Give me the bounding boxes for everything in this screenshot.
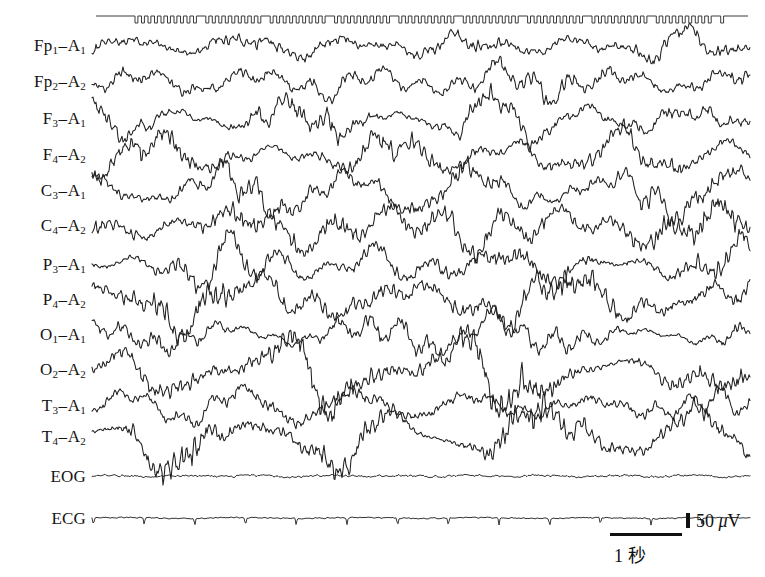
- amplitude-calibration-label: 50 μV: [696, 511, 741, 532]
- eeg-trace-area: [0, 0, 765, 577]
- trace-f4-a2: [92, 119, 750, 186]
- amplitude-calibration-tick: [686, 513, 690, 528]
- trace-o1-a1: [92, 305, 750, 366]
- time-calibration-bar: [610, 533, 682, 536]
- volt-symbol: V: [728, 511, 741, 531]
- trace-f3-a1: [92, 83, 750, 152]
- trace-eog: [92, 474, 750, 478]
- trace-o2-a2: [92, 326, 750, 421]
- timing-marker-bar: [96, 16, 748, 23]
- trace-t4-a2: [92, 392, 750, 486]
- trace-fp1-a1: [92, 24, 750, 64]
- time-calibration-label: 1 秒: [614, 541, 646, 567]
- trace-p3-a1: [92, 229, 750, 293]
- trace-c3-a1: [92, 156, 750, 234]
- eeg-trace-svg: [0, 0, 765, 577]
- amplitude-value: 50: [696, 511, 714, 531]
- calibration-legend: 1 秒 50 μV: [600, 505, 765, 575]
- trace-p4-a2: [92, 269, 750, 345]
- eeg-recording-page: Fp1–A1Fp2–A2F3–A1F4–A2C3–A1C4–A2P3–A1P4–…: [0, 0, 765, 577]
- micro-symbol: μ: [719, 511, 728, 531]
